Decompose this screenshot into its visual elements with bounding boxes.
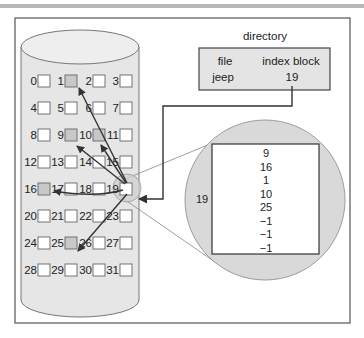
- disk-block-label: 12: [24, 156, 37, 168]
- index-entry-4: 25: [260, 201, 272, 213]
- free-block-box: [38, 237, 50, 249]
- free-block-box: [120, 156, 132, 168]
- disk-block-label: 11: [107, 129, 119, 141]
- disk-block-label: 0: [31, 75, 37, 87]
- free-block-box: [65, 264, 77, 276]
- free-block-box: [93, 75, 105, 87]
- free-block-box: [120, 264, 132, 276]
- index-block-entries: 91611025−1−1−1: [260, 147, 273, 254]
- free-block-box: [65, 102, 77, 114]
- free-block-box: [38, 102, 50, 114]
- disk-block-label: 9: [58, 129, 64, 141]
- free-block-box: [120, 210, 132, 222]
- free-block-box: [120, 129, 132, 141]
- disk-block-label: 21: [51, 210, 64, 222]
- free-block-box: [93, 102, 105, 114]
- free-block-box: [120, 237, 132, 249]
- disk-block-label: 18: [79, 183, 92, 195]
- index-entry-7: −1: [260, 242, 273, 254]
- disk-block-label: 29: [51, 264, 64, 276]
- free-block-box: [65, 156, 77, 168]
- directory-col-index-block: index block: [262, 55, 320, 67]
- disk-block-label: 31: [106, 264, 119, 276]
- free-block-box: [38, 75, 50, 87]
- disk-block-label: 25: [51, 237, 64, 249]
- disk-block-0[interactable]: 0: [31, 75, 50, 87]
- used-block-box: [65, 129, 77, 141]
- disk-block-1[interactable]: 1: [58, 75, 77, 87]
- index-entry-3: 10: [260, 188, 272, 200]
- free-block-box: [93, 264, 105, 276]
- directory-row-file[interactable]: jeep: [211, 71, 234, 83]
- disk-block-label: 7: [113, 102, 119, 114]
- disk-block-label: 17: [51, 183, 64, 195]
- disk-block-label: 28: [24, 264, 37, 276]
- disk-block-3[interactable]: 3: [113, 75, 132, 87]
- directory-row-index-block: 19: [286, 71, 299, 83]
- used-block-box: [65, 237, 77, 249]
- free-block-box: [120, 102, 132, 114]
- disk-block-label: 8: [31, 129, 37, 141]
- disk-block-2[interactable]: 2: [86, 75, 105, 87]
- index-entry-6: −1: [260, 228, 273, 240]
- used-block-box: [65, 75, 77, 87]
- disk-block-label: 1: [58, 75, 64, 87]
- index-block-label: 19: [196, 193, 208, 205]
- index-entry-2: 1: [263, 174, 269, 186]
- disk-block-8[interactable]: 8: [31, 129, 50, 141]
- free-block-box: [93, 210, 105, 222]
- disk-block-9[interactable]: 9: [58, 129, 77, 141]
- disk-block-label: 2: [86, 75, 92, 87]
- disk-block-label: 24: [24, 237, 37, 249]
- disk-block-label: 5: [58, 102, 64, 114]
- free-block-box: [38, 156, 50, 168]
- index-entry-1: 16: [260, 161, 272, 173]
- disk-block-label: 14: [79, 156, 92, 168]
- disk-block-label: 27: [106, 237, 119, 249]
- index-block-magnifier: 19 91611025−1−1−1: [185, 120, 345, 280]
- disk-block-label: 10: [79, 129, 92, 141]
- indexed-allocation-diagram: 0123456789101112131415161718192021222324…: [0, 0, 364, 338]
- disk-block-4[interactable]: 4: [31, 102, 50, 114]
- free-block-box: [65, 210, 77, 222]
- free-block-box: [120, 183, 132, 195]
- index-entry-5: −1: [260, 215, 273, 227]
- disk-block-label: 4: [31, 102, 38, 114]
- index-entry-0: 9: [263, 147, 269, 159]
- disk-block-label: 3: [113, 75, 119, 87]
- disk-block-label: 16: [24, 183, 37, 195]
- disk-block-7[interactable]: 7: [113, 102, 132, 114]
- directory-title: directory: [243, 30, 287, 42]
- disk-block-label: 20: [24, 210, 37, 222]
- disk-block-label: 22: [79, 210, 92, 222]
- free-block-box: [38, 210, 50, 222]
- free-block-box: [38, 264, 50, 276]
- disk-block-label: 30: [79, 264, 92, 276]
- free-block-box: [120, 75, 132, 87]
- free-block-box: [93, 237, 105, 249]
- used-block-box: [38, 183, 50, 195]
- disk-block-5[interactable]: 5: [58, 102, 77, 114]
- free-block-box: [38, 129, 50, 141]
- disk-block-label: 13: [51, 156, 64, 168]
- directory-col-file: file: [218, 55, 233, 67]
